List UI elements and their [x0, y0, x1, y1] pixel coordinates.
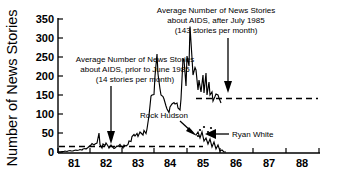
y-tick-label-150: 150 [36, 89, 54, 101]
x-tick-label-82: 82 [100, 157, 112, 169]
x-tick-label-87: 87 [263, 157, 275, 169]
x-tick-label-85: 85 [197, 157, 209, 169]
annotation-ryan-white: Ryan White [205, 129, 274, 139]
y-tick-label-50: 50 [42, 127, 54, 139]
y-tick-label-250: 250 [36, 51, 54, 63]
annotation-prior-june-1985-line1: Average Number of News Stories [76, 55, 195, 64]
chart-figure: 350 300 250 200 150 100 50 0 Number of N… [0, 0, 339, 178]
y-axis: 350 300 250 200 150 100 50 0 Number of N… [4, 9, 63, 166]
annotation-after-july-1985-line1: Average Number of News Stories [157, 6, 276, 15]
annotation-rock-hudson: Rock Hudson [140, 111, 197, 136]
y-tick-label-350: 350 [36, 13, 54, 25]
y-tick-label-0: 0 [48, 146, 54, 158]
annotation-after-july-1985-line3: (143 stories per month) [175, 26, 258, 35]
x-tick-label-81: 81 [68, 157, 80, 169]
x-tick-label-84: 84 [164, 157, 177, 169]
annotation-prior-june-1985: Average Number of News Stories about AID… [76, 55, 195, 144]
x-tick-label-83: 83 [132, 157, 144, 169]
annotation-prior-june-1985-line2: about AIDS, prior to June 1985 [80, 65, 190, 74]
y-axis-title: Number of News Stories [4, 9, 20, 166]
annotation-prior-june-1985-line3: (14 stories per month) [96, 75, 175, 84]
x-tick-label-86: 86 [230, 157, 242, 169]
annotation-rock-hudson-label: Rock Hudson [140, 111, 188, 120]
y-tick-label-300: 300 [36, 32, 54, 44]
x-axis: 81 82 83 84 85 86 87 88 [58, 148, 320, 169]
annotation-ryan-white-arrow-head [205, 129, 216, 139]
y-tick-label-100: 100 [36, 108, 54, 120]
annotation-after-july-1985: Average Number of News Stories about AID… [157, 6, 276, 93]
annotation-ryan-white-label: Ryan White [232, 130, 274, 139]
x-tick-label-88: 88 [296, 157, 308, 169]
chart-canvas: 350 300 250 200 150 100 50 0 Number of N… [0, 0, 339, 178]
annotation-prior-june-1985-arrow-head [107, 131, 115, 144]
y-tick-label-200: 200 [36, 70, 54, 82]
annotation-after-july-1985-arrow-head [224, 81, 232, 93]
annotation-after-july-1985-line2: about AIDS, after July 1985 [167, 16, 265, 25]
